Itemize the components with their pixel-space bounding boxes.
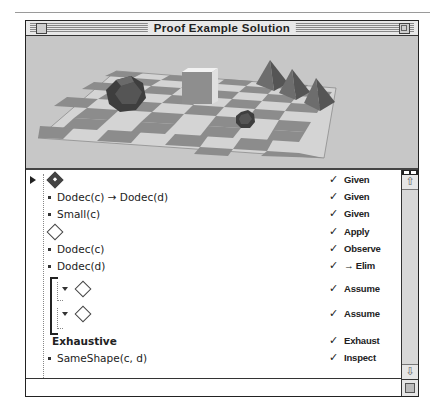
diamond-icon bbox=[75, 281, 92, 298]
bullet-icon bbox=[48, 357, 51, 360]
disclosure-triangle-icon[interactable] bbox=[62, 312, 68, 316]
zoom-box-icon[interactable] bbox=[399, 23, 410, 34]
title-bar[interactable]: Proof Example Solution bbox=[26, 21, 418, 36]
large-cube bbox=[182, 68, 218, 104]
proof-step[interactable]: Exhaustive ✓ Exhaust bbox=[26, 333, 396, 349]
proof-step[interactable]: Dodec(d) ✓ → Elim bbox=[26, 258, 396, 274]
check-icon: ✓ bbox=[329, 258, 338, 274]
check-icon: ✓ bbox=[329, 241, 338, 257]
proof-lines: ✓ Given Dodec(c) → Dodec(d) ✓ Given Smal… bbox=[26, 170, 396, 378]
subproof-bracket-top bbox=[50, 277, 58, 279]
bullet-icon bbox=[48, 213, 51, 216]
title-stripes-right bbox=[286, 23, 414, 33]
rule-label[interactable]: Apply bbox=[344, 224, 369, 240]
rule-label[interactable]: Inspect bbox=[344, 350, 376, 366]
close-box-icon[interactable] bbox=[36, 23, 47, 34]
proof-window: Proof Example Solution bbox=[25, 20, 419, 397]
check-icon: ✓ bbox=[329, 224, 338, 240]
check-icon: ✓ bbox=[329, 206, 338, 222]
world-scene bbox=[26, 36, 418, 170]
check-icon: ✓ bbox=[329, 306, 338, 322]
check-icon: ✓ bbox=[329, 189, 338, 205]
proof-step[interactable]: Small(c) ✓ Given bbox=[26, 206, 396, 222]
vertical-scrollbar[interactable]: ⇧ ⇩ bbox=[401, 170, 418, 396]
scroll-down-arrow-icon[interactable]: ⇩ bbox=[402, 364, 418, 379]
rule-label[interactable]: Given bbox=[344, 206, 369, 222]
check-icon: ✓ bbox=[329, 350, 338, 366]
proof-step[interactable]: ✓ Apply bbox=[26, 224, 396, 240]
proof-panel: ✓ Given Dodec(c) → Dodec(d) ✓ Given Smal… bbox=[26, 170, 418, 396]
rule-label[interactable]: Given bbox=[344, 189, 369, 205]
proof-step[interactable]: Dodec(c) ✓ Observe bbox=[26, 241, 396, 257]
rule-label[interactable]: Given bbox=[344, 172, 369, 188]
proof-step[interactable]: Dodec(c) → Dodec(d) ✓ Given bbox=[26, 189, 396, 205]
rule-label[interactable]: Assume bbox=[344, 306, 380, 322]
check-icon: ✓ bbox=[329, 333, 338, 349]
rule-label[interactable]: Assume bbox=[344, 281, 380, 297]
proof-step[interactable]: SameShape(c, d) ✓ Inspect bbox=[26, 350, 396, 366]
window-title: Proof Example Solution bbox=[148, 21, 296, 35]
bullet-icon bbox=[48, 248, 51, 251]
top-divider bbox=[15, 12, 430, 13]
proof-step[interactable]: ✓ Given bbox=[26, 172, 396, 188]
title-stripes-left bbox=[30, 23, 160, 33]
diamond-icon bbox=[47, 224, 64, 241]
status-bar bbox=[26, 378, 401, 396]
check-icon: ✓ bbox=[329, 281, 338, 297]
proof-step[interactable]: ✓ Assume bbox=[26, 306, 396, 322]
rule-label[interactable]: → Elim bbox=[344, 258, 375, 274]
scroll-up-arrow-icon[interactable]: ⇧ bbox=[402, 175, 418, 190]
disclosure-triangle-icon[interactable] bbox=[62, 287, 68, 291]
proof-step[interactable]: ✓ Assume bbox=[26, 281, 396, 297]
check-icon: ✓ bbox=[329, 172, 338, 188]
bullet-icon bbox=[48, 265, 51, 268]
diamond-icon bbox=[75, 306, 92, 323]
resize-grow-box-icon[interactable] bbox=[402, 379, 418, 396]
bullet-icon bbox=[48, 196, 51, 199]
rule-label[interactable]: Exhaust bbox=[344, 333, 380, 349]
blocks-world-3d-view bbox=[26, 36, 418, 168]
diamond-filled-icon bbox=[47, 172, 64, 189]
rule-label[interactable]: Observe bbox=[344, 241, 381, 257]
